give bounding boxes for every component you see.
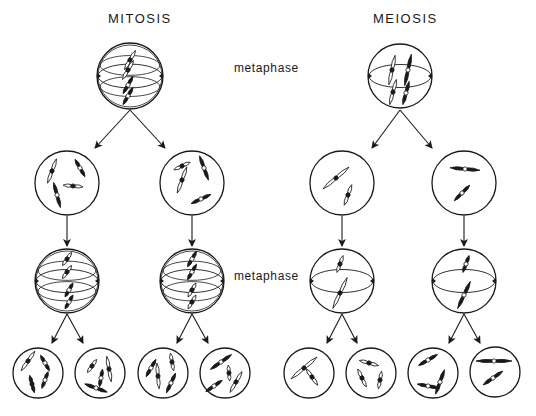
centromere-icon <box>227 371 232 376</box>
mitosis-meiosis-diagram: MITOSIS MEIOSIS metaphase metaphase <box>0 0 536 416</box>
cell-membrane <box>160 151 224 215</box>
chromosome <box>376 371 383 389</box>
pole-left-icon <box>160 278 164 284</box>
centromere-icon <box>156 374 161 379</box>
chromosomes-layer <box>19 49 512 395</box>
cell-mitosis-daughter-a <box>35 151 99 215</box>
cell-meiosis-parent <box>368 44 432 108</box>
chromosome <box>482 369 504 386</box>
chromosome <box>417 382 439 390</box>
chromosome <box>456 281 472 310</box>
arrow-5 <box>67 314 83 343</box>
cell-mitosis-grand-3 <box>138 348 188 398</box>
chromosome <box>226 365 232 381</box>
cell-meiosis-daughter-b-metaphase <box>432 249 496 313</box>
mitosis-title: MITOSIS <box>108 11 172 26</box>
pole-left-icon <box>432 278 436 284</box>
pole-left-icon <box>97 73 101 79</box>
cell-meiosis-daughter-b <box>432 151 496 215</box>
arrow-6 <box>177 314 192 343</box>
chromosome <box>164 372 177 394</box>
chromosome <box>52 182 63 208</box>
cell-membrane <box>368 44 432 108</box>
chromosome <box>450 166 480 173</box>
spindle <box>368 64 432 87</box>
chromosome <box>168 353 175 371</box>
chromosome <box>401 81 411 105</box>
arrow-8 <box>372 110 400 148</box>
arrow-13 <box>342 314 357 343</box>
chromosome <box>155 363 161 389</box>
chromosome <box>173 160 191 171</box>
cell-membrane <box>432 249 496 313</box>
cell-meiosis-daughter-a <box>310 151 374 215</box>
chromosome <box>190 192 212 205</box>
chromosome <box>335 255 345 273</box>
arrow-1 <box>130 110 165 148</box>
centromere-icon <box>107 367 112 372</box>
cell-meiosis-grand-4 <box>470 347 520 397</box>
centromere-icon <box>71 184 76 189</box>
metaphase-label-top: metaphase <box>234 61 299 75</box>
pole-right-icon <box>159 73 163 79</box>
centromere-icon <box>463 167 468 172</box>
chromosome <box>331 277 349 310</box>
chromosome <box>40 371 50 389</box>
chromosome <box>198 155 211 181</box>
pole-right-icon <box>220 278 224 284</box>
metaphase-label-middle: metaphase <box>234 269 299 283</box>
cells-layer <box>13 43 520 398</box>
chromosome <box>28 375 37 393</box>
chromosome <box>205 379 224 394</box>
pole-right-icon <box>95 278 99 284</box>
pole-left-icon <box>35 278 39 284</box>
centromere-icon <box>492 359 496 363</box>
chromosome <box>46 158 59 184</box>
centromere-icon <box>390 68 395 73</box>
pole-left-icon <box>368 73 372 79</box>
centromere-icon <box>99 376 104 381</box>
pole-right-icon <box>492 278 496 284</box>
chromosome <box>63 183 83 189</box>
chromosome <box>461 255 471 273</box>
chromosome <box>305 368 320 387</box>
chromosome <box>39 354 52 372</box>
centromere-icon <box>406 68 411 73</box>
chromosome <box>86 358 99 374</box>
chromosome <box>322 165 351 190</box>
cell-membrane <box>97 43 163 109</box>
cell-membrane <box>138 348 188 398</box>
chromosome <box>105 356 114 382</box>
chromosome <box>84 382 108 394</box>
cell-membrane <box>470 347 520 397</box>
cell-meiosis-grand-2 <box>346 348 396 398</box>
pole-right-icon <box>428 73 432 79</box>
chromosome <box>356 368 368 388</box>
arrow-9 <box>400 110 432 148</box>
pole-left-icon <box>310 278 314 284</box>
spindle <box>432 269 496 292</box>
chromosome <box>61 251 74 267</box>
pole-right-icon <box>370 278 374 284</box>
cell-membrane <box>35 151 99 215</box>
arrow-14 <box>449 314 464 343</box>
arrow-12 <box>327 314 342 343</box>
arrow-0 <box>95 110 130 148</box>
arrows-layer <box>52 110 480 343</box>
centromere-icon <box>378 378 383 383</box>
arrow-7 <box>192 314 208 343</box>
cell-membrane <box>346 348 396 398</box>
chromosome <box>403 54 414 86</box>
cell-mitosis-daughter-b <box>160 151 224 215</box>
chromosome <box>359 358 379 367</box>
cell-membrane <box>13 348 63 398</box>
chromosome <box>342 184 353 206</box>
arrow-15 <box>464 314 480 343</box>
centromere-icon <box>170 360 175 365</box>
centromere-icon <box>426 384 431 389</box>
arrow-4 <box>52 314 67 343</box>
spindle <box>97 45 163 107</box>
chromosome <box>476 359 512 363</box>
cell-membrane <box>432 151 496 215</box>
chromosome <box>61 264 74 280</box>
